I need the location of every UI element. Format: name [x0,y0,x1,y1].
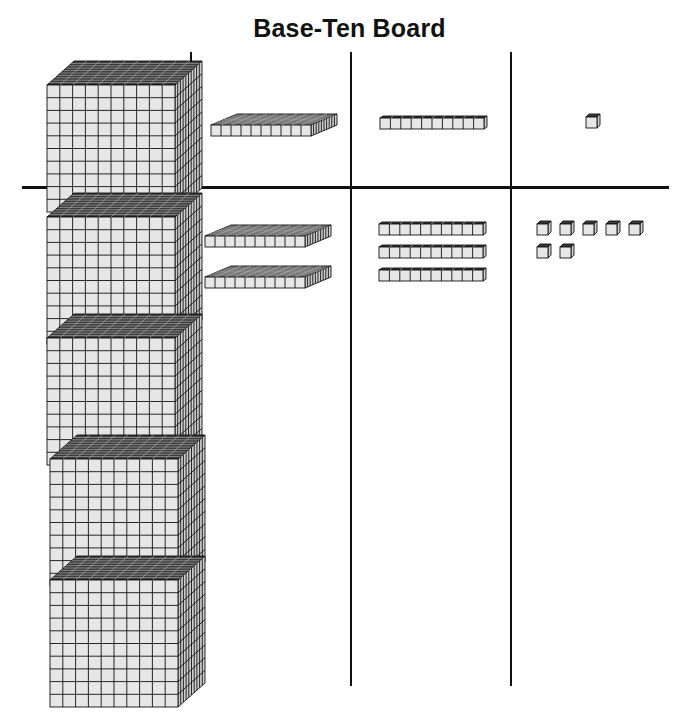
ones-unit [628,220,646,238]
board-title: Base-Ten Board [0,14,699,43]
column-divider-3 [510,52,512,686]
column-divider-2 [350,52,352,686]
thousands-cube [49,555,208,710]
hundreds-flat [204,265,334,291]
ones-unit-key [585,113,603,131]
ones-unit [559,220,577,238]
hundreds-flat-key [210,113,340,139]
tens-rod-key [379,115,490,132]
ones-unit [536,243,554,261]
ones-unit [559,243,577,261]
tens-rod [378,221,489,238]
hundreds-flat [204,224,334,250]
ones-unit [582,220,600,238]
tens-rod [378,267,489,284]
ones-unit [536,220,554,238]
tens-rod [378,244,489,261]
ones-unit [605,220,623,238]
